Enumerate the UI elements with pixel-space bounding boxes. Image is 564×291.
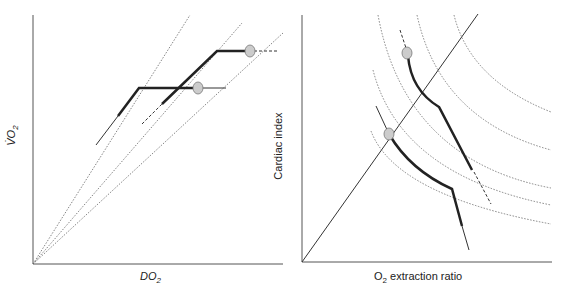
curve-1-marker xyxy=(193,82,203,94)
iso-line-2 xyxy=(33,23,242,264)
upper-curve-dashed-tail xyxy=(474,172,491,204)
upper-curve-marker xyxy=(402,47,412,59)
curve-2-marker xyxy=(245,45,255,57)
curve-2-dashed-tail xyxy=(142,104,162,124)
left-x-label-sub: 2 xyxy=(157,276,161,285)
left-y-axis-label: V̇O2 xyxy=(5,125,20,145)
iso-line-3 xyxy=(33,33,283,264)
isopleth-2 xyxy=(373,70,551,205)
lower-curve-marker xyxy=(384,128,394,140)
left-x-axis-label: DO2 xyxy=(140,270,161,285)
right-panel xyxy=(302,14,552,262)
curve-2-thick xyxy=(162,51,250,104)
right-x-axis-label: O2 extraction ratio xyxy=(374,270,462,285)
right-x-label-main: O xyxy=(374,270,383,282)
isopleth-4 xyxy=(417,15,551,150)
lower-curve-thin-tail xyxy=(462,226,469,250)
upper-curve-thick xyxy=(408,56,472,170)
curve-1-thin-tail xyxy=(96,116,118,145)
isopleth-5 xyxy=(454,15,551,112)
left-y-label-sub: 2 xyxy=(11,125,20,129)
left-x-label-main: DO xyxy=(140,270,157,282)
iso-line-1 xyxy=(33,15,190,264)
right-x-label-rest: extraction ratio xyxy=(387,270,462,282)
left-y-label-main: V̇O xyxy=(5,130,17,146)
lower-curve-thick xyxy=(389,134,462,226)
isopleth-1 xyxy=(371,131,551,224)
left-panel xyxy=(33,15,283,264)
right-y-axis-label: Cardiac index xyxy=(272,112,284,179)
